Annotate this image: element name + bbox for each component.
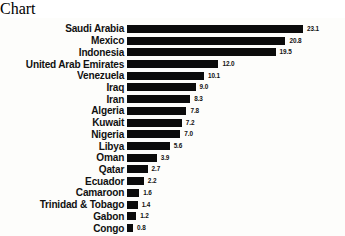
bar	[127, 37, 285, 45]
bar-row: Libya5.6	[0, 140, 345, 152]
plot-area: Saudi Arabia23.1Mexico20.8Indonesia19.5U…	[0, 23, 345, 234]
value-label: 3.9	[157, 154, 170, 162]
bar	[127, 189, 139, 197]
bar	[127, 165, 148, 173]
value-label: 1.2	[136, 212, 149, 220]
value-label: 9.0	[196, 83, 209, 91]
bar	[127, 212, 136, 220]
bar-row: Gabon1.2	[0, 211, 345, 223]
category-label: Trinidad & Tobago	[5, 199, 127, 210]
category-label: Libya	[5, 141, 127, 152]
category-label: Camaroon	[5, 187, 127, 198]
value-label: 10.1	[204, 72, 220, 80]
bar-container: 10.1	[127, 70, 345, 82]
bar-row: Nigeria7.0	[0, 128, 345, 140]
bar	[127, 107, 186, 115]
value-label: 7.2	[182, 119, 195, 127]
value-label: 1.4	[138, 201, 151, 209]
bar-container: 12.0	[127, 58, 345, 70]
bar-container: 2.2	[127, 175, 345, 187]
value-label: 12.0	[218, 60, 234, 68]
category-label: Gabon	[5, 211, 127, 222]
bar-row: Mexico20.8	[0, 35, 345, 47]
value-label: 7.8	[186, 107, 199, 115]
bar	[127, 154, 157, 162]
bar-row: Ecuador2.2	[0, 175, 345, 187]
bar-row: Camaroon1.6	[0, 187, 345, 199]
bar	[127, 72, 204, 80]
category-label: Venezuela	[5, 70, 127, 81]
bar-container: 7.0	[127, 128, 345, 140]
value-label: 5.6	[170, 142, 183, 150]
bar-container: 5.6	[127, 140, 345, 152]
category-label: Ecuador	[5, 176, 127, 187]
category-label: Qatar	[5, 164, 127, 175]
bar	[127, 177, 144, 185]
category-label: Iraq	[5, 82, 127, 93]
value-label: 2.2	[144, 177, 157, 185]
bar	[127, 201, 138, 209]
bar-row: Iran8.3	[0, 93, 345, 105]
value-label: 0.8	[133, 224, 146, 232]
category-label: United Arab Emirates	[5, 59, 127, 70]
category-label: Congo	[5, 223, 127, 234]
category-label: Mexico	[5, 35, 127, 46]
value-label: 19.5	[276, 48, 292, 56]
bar-row: Oman3.9	[0, 152, 345, 164]
bar-row: Qatar2.7	[0, 164, 345, 176]
bar	[127, 48, 276, 56]
value-label: 8.3	[190, 95, 203, 103]
bar-chart: Saudi Arabia23.1Mexico20.8Indonesia19.5U…	[0, 18, 345, 236]
category-label: Kuwait	[5, 117, 127, 128]
bar	[127, 95, 190, 103]
value-label: 7.0	[180, 130, 193, 138]
bar-row: Kuwait7.2	[0, 117, 345, 129]
category-label: Algeria	[5, 105, 127, 116]
category-label: Oman	[5, 152, 127, 163]
bar-container: 8.3	[127, 93, 345, 105]
bar-container: 1.4	[127, 199, 345, 211]
bar-container: 7.2	[127, 117, 345, 129]
bar-container: 0.8	[127, 222, 345, 234]
bar-container: 20.8	[127, 35, 345, 47]
category-label: Saudi Arabia	[5, 23, 127, 34]
bar	[127, 130, 180, 138]
bar-row: Indonesia19.5	[0, 46, 345, 58]
value-label: 23.1	[303, 25, 319, 33]
bar-container: 1.6	[127, 187, 345, 199]
bar-container: 7.8	[127, 105, 345, 117]
bar-container: 1.2	[127, 211, 345, 223]
bar-row: United Arab Emirates12.0	[0, 58, 345, 70]
bar	[127, 60, 218, 68]
bar-container: 9.0	[127, 82, 345, 94]
bar-row: Saudi Arabia23.1	[0, 23, 345, 35]
category-label: Indonesia	[5, 47, 127, 58]
category-label: Iran	[5, 94, 127, 105]
bar-container: 2.7	[127, 164, 345, 176]
bar-container: 19.5	[127, 46, 345, 58]
value-label: 2.7	[148, 165, 161, 173]
bar-container: 3.9	[127, 152, 345, 164]
bar-container: 23.1	[127, 23, 345, 35]
bar	[127, 25, 303, 33]
bar-row: Trinidad & Tobago1.4	[0, 199, 345, 211]
bar-row: Congo0.8	[0, 222, 345, 234]
bar-row: Iraq9.0	[0, 82, 345, 94]
bar-row: Algeria7.8	[0, 105, 345, 117]
category-label: Nigeria	[5, 129, 127, 140]
value-label: 20.8	[285, 37, 301, 45]
bar-row: Venezuela10.1	[0, 70, 345, 82]
value-label: 1.6	[139, 189, 152, 197]
bar	[127, 142, 170, 150]
bar	[127, 119, 182, 127]
bar	[127, 83, 196, 91]
